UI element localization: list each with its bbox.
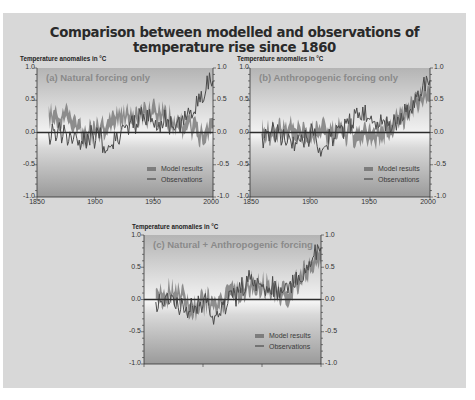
y-tick-right: 0.5 bbox=[434, 95, 454, 102]
panel-title: (b) Anthropogenic forcing only bbox=[259, 72, 399, 83]
y-tick-right: -0.5 bbox=[325, 327, 345, 334]
y-tick-right: 1.0 bbox=[434, 63, 454, 70]
y-tick-right: -0.5 bbox=[434, 160, 454, 167]
y-tick-right: 0.0 bbox=[434, 128, 454, 135]
y-tick: 0.0 bbox=[229, 128, 249, 135]
y-axis-label: Temperature anomalies in °C bbox=[237, 55, 323, 62]
legend-model-swatch bbox=[147, 167, 156, 171]
plot-area-a: (a) Natural forcing onlyModel resultsObs… bbox=[37, 68, 213, 197]
y-tick-right: 1.0 bbox=[325, 231, 345, 238]
x-tick: 1900 bbox=[80, 198, 110, 205]
y-tick: 1.0 bbox=[15, 63, 35, 70]
legend-obs-label: Observations bbox=[269, 343, 311, 350]
plot-area-c: (c) Natural + Anthropogenic forcingModel… bbox=[144, 235, 321, 364]
x-tick: 2000 bbox=[196, 198, 226, 205]
y-tick: 0.5 bbox=[15, 95, 35, 102]
figure-frame: Comparison between modelled and observat… bbox=[3, 13, 466, 388]
x-tick: 1950 bbox=[138, 198, 168, 205]
y-axis-label: Temperature anomalies in °C bbox=[20, 55, 106, 62]
plot-area-b: (b) Anthropogenic forcing onlyModel resu… bbox=[250, 68, 430, 197]
y-tick: 1.0 bbox=[121, 231, 141, 238]
y-tick: 0.0 bbox=[121, 295, 141, 302]
y-tick: 1.0 bbox=[229, 63, 249, 70]
legend-model-swatch bbox=[255, 334, 264, 338]
x-tick: 2000 bbox=[413, 198, 443, 205]
y-tick: 0.5 bbox=[229, 95, 249, 102]
figure-title: Comparison between modelled and observat… bbox=[3, 25, 466, 55]
legend-model-label: Model results bbox=[378, 165, 420, 172]
y-tick: -1.0 bbox=[121, 359, 141, 366]
legend-model-label: Model results bbox=[161, 165, 203, 172]
panel-title: (c) Natural + Anthropogenic forcing bbox=[153, 239, 313, 250]
y-tick-right: 0.0 bbox=[325, 295, 345, 302]
y-axis-label: Temperature anomalies in °C bbox=[132, 223, 218, 230]
legend-model-swatch bbox=[364, 167, 373, 171]
legend-obs-label: Observations bbox=[161, 176, 203, 183]
y-tick: 0.5 bbox=[121, 263, 141, 270]
x-tick: 1850 bbox=[236, 198, 266, 205]
y-tick-right: -1.0 bbox=[325, 359, 345, 366]
legend-obs-label: Observations bbox=[378, 176, 420, 183]
panel-title: (a) Natural forcing only bbox=[46, 72, 151, 83]
y-tick: 0.0 bbox=[15, 128, 35, 135]
y-tick: -0.5 bbox=[15, 160, 35, 167]
y-tick: -0.5 bbox=[229, 160, 249, 167]
legend-model-label: Model results bbox=[269, 332, 311, 339]
x-tick: 1950 bbox=[354, 198, 384, 205]
y-tick: -0.5 bbox=[121, 327, 141, 334]
y-tick-right: 0.5 bbox=[325, 263, 345, 270]
